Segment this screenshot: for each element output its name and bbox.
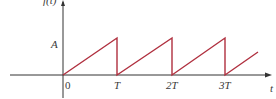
tick-label-2T: 2T — [166, 80, 178, 91]
plot-canvas — [0, 0, 276, 99]
sawtooth-figure: f(t) A 0 T 2T 3T t — [0, 0, 276, 99]
x-axis-label: t — [270, 83, 273, 94]
sawtooth-waveform — [63, 38, 258, 75]
tick-label-T: T — [114, 80, 120, 91]
y-axis-label: f(t) — [43, 0, 56, 6]
tick-label-3T: 3T — [219, 80, 231, 91]
amplitude-label: A — [51, 39, 58, 50]
y-axis-arrow-icon — [61, 0, 65, 6]
x-axis-arrow-icon — [265, 73, 272, 78]
tick-label-0: 0 — [65, 80, 71, 91]
